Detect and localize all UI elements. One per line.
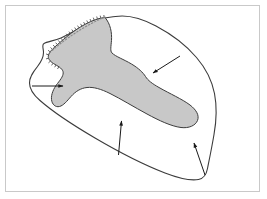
serration-tick <box>100 16 101 19</box>
shaded-inner-region <box>48 18 198 128</box>
diagram-canvas <box>0 0 267 199</box>
serration-tick <box>81 24 82 26</box>
serration-tick <box>61 38 63 40</box>
arrow-top-right <box>153 56 180 73</box>
serration-tick <box>51 47 53 49</box>
serration-tick <box>53 45 55 47</box>
serration-tick <box>48 50 50 52</box>
serration-tick <box>78 26 79 28</box>
serration-tick <box>56 43 58 45</box>
figure-container <box>0 0 267 199</box>
serration-tick <box>84 22 85 24</box>
arrow-bottom-center <box>119 121 122 155</box>
serration-tick <box>46 54 48 55</box>
serration-tick <box>46 58 49 59</box>
serration-tick <box>55 65 56 67</box>
serration-tick <box>48 61 50 63</box>
serration-tick <box>58 40 60 42</box>
serration-tick <box>72 30 74 32</box>
arrow-bottom-right <box>194 143 205 175</box>
serration-tick <box>87 20 88 22</box>
serration-tick <box>52 63 53 65</box>
serration-tick <box>75 28 76 30</box>
serration-tick <box>57 67 58 69</box>
